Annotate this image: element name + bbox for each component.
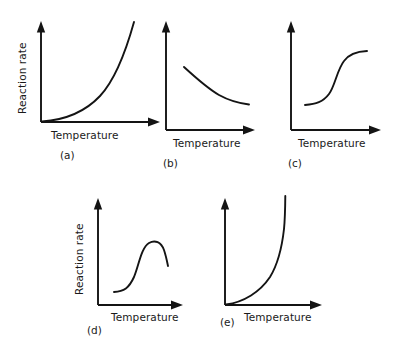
y-axis-arrow-icon-e [221, 198, 229, 210]
chart-panel-c: Temperature (c) [288, 18, 407, 133]
chart-panel-d: Reaction rate Temperature (d) [95, 195, 220, 310]
x-axis-label-c: Temperature [298, 137, 366, 149]
figure-reaction-rate-vs-temperature: Reaction rate Temperature (a) Temperatur… [0, 0, 407, 345]
x-axis-arrow-icon-a [148, 118, 160, 127]
data-curve-c [305, 51, 367, 105]
x-axis-arrow-icon-c [369, 126, 381, 135]
y-axis-label-a: Reaction rate [16, 42, 28, 114]
chart-panel-b: Temperature (b) [163, 18, 283, 133]
chart-plot-e [222, 195, 352, 310]
x-axis-label-d: Temperature [111, 311, 179, 323]
panel-letter-a: (a) [60, 149, 75, 161]
data-curve-b [184, 67, 249, 105]
x-axis-label-e: Temperature [244, 311, 312, 323]
x-axis-arrow-icon-d [171, 301, 183, 310]
y-axis-arrow-icon-b [162, 21, 170, 33]
panel-letter-e: (e) [220, 316, 235, 328]
chart-plot-d [95, 195, 220, 310]
panel-letter-c: (c) [288, 157, 302, 169]
chart-plot-c [288, 18, 407, 133]
x-axis-label-b: Temperature [173, 137, 241, 149]
data-curve-a [42, 22, 134, 122]
x-axis-arrow-icon-b [243, 126, 255, 135]
x-axis-arrow-icon-e [310, 301, 322, 310]
chart-panel-a: Reaction rate Temperature (a) [38, 18, 168, 133]
panel-letter-d: (d) [87, 324, 102, 336]
y-axis-arrow-icon-a [37, 21, 45, 33]
chart-plot-a [38, 18, 168, 133]
data-curve-d [114, 241, 168, 292]
chart-panel-e: Temperature (e) [222, 195, 352, 310]
panel-letter-b: (b) [163, 157, 178, 169]
data-curve-e [226, 196, 285, 305]
y-axis-arrow-icon-d [94, 198, 102, 210]
chart-plot-b [163, 18, 283, 133]
y-axis-label-d: Reaction rate [73, 223, 85, 295]
x-axis-label-a: Temperature [51, 129, 119, 141]
y-axis-arrow-icon-c [287, 21, 295, 33]
